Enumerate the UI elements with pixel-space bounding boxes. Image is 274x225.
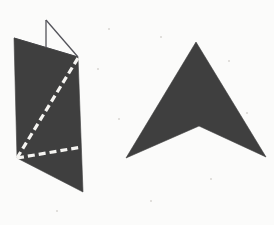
figures-svg <box>0 0 274 225</box>
figure-canvas <box>0 0 274 225</box>
